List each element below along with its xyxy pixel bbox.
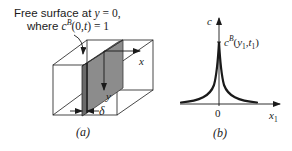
thickness-label: δ	[99, 104, 105, 118]
figure-canvas: Free surface at y = 0, where cB(0,t) = 1	[0, 0, 292, 151]
graph-x-label: x1	[268, 109, 278, 124]
x-axis-label: x	[138, 55, 144, 67]
caption-b: (b)	[213, 126, 227, 140]
pointer-arrow-icon	[74, 35, 83, 54]
peak-value-label: cB(y1,t1)	[224, 34, 259, 51]
caption-a: (a)	[76, 125, 90, 139]
free-surface-annotation-line2: where cB(0,t) = 1	[26, 18, 109, 33]
panel-a: Free surface at y = 0, where cB(0,t) = 1	[14, 7, 153, 139]
graph-y-label: c	[207, 15, 212, 27]
panel-b: c cB(y1,t1) 0 x1 (b)	[180, 15, 280, 140]
y-axis-label: y	[105, 90, 111, 102]
origin-label: 0	[215, 107, 221, 119]
